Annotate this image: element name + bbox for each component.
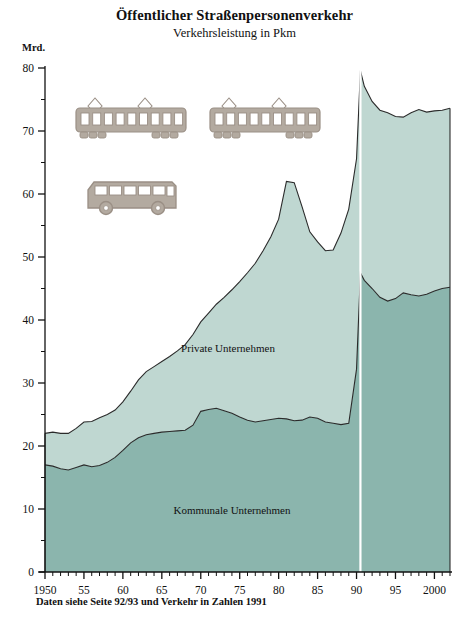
y-tick-label-0: 0 — [28, 566, 34, 578]
series-label-kommunale-unternehmen: Kommunale Unternehmen — [174, 504, 291, 516]
bus-icon — [88, 182, 176, 215]
x-tick-label-60: 60 — [117, 584, 129, 596]
chart-root: Öffentlicher Straßenpersonenverkehr Verk… — [0, 0, 469, 625]
x-tick-label-80: 80 — [273, 584, 285, 596]
y-tick-label-30: 30 — [23, 377, 35, 389]
series-label-private-unternehmen: Private Unternehmen — [181, 342, 275, 354]
x-tick-label-75: 75 — [234, 584, 246, 596]
y-tick-label-40: 40 — [23, 314, 35, 326]
y-tick-label-80: 80 — [23, 62, 35, 74]
y-tick-label-10: 10 — [23, 503, 35, 515]
x-tick-label-90: 90 — [351, 584, 363, 596]
x-tick-label-55: 55 — [78, 584, 90, 596]
x-tick-label-65: 65 — [156, 584, 168, 596]
x-tick-label-95: 95 — [390, 584, 402, 596]
tram-icon — [76, 98, 186, 138]
x-tick-label-1950: 1950 — [34, 584, 57, 596]
y-tick-label-20: 20 — [23, 440, 35, 452]
x-tick-label-2000: 2000 — [423, 584, 446, 596]
y-tick-label-60: 60 — [23, 188, 35, 200]
y-tick-label-70: 70 — [23, 125, 35, 137]
source-footnote: Daten siehe Seite 92/93 und Verkehr in Z… — [36, 596, 267, 607]
y-tick-label-50: 50 — [23, 251, 35, 263]
x-tick-label-85: 85 — [312, 584, 324, 596]
chart-svg: 0102030405060708019505560657075808590952… — [0, 0, 469, 625]
x-tick-label-70: 70 — [195, 584, 207, 596]
tram-icon — [210, 98, 320, 138]
